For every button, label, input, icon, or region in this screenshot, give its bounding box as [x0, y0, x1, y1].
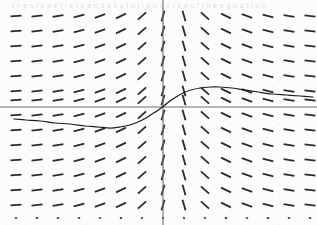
slope-segment: [263, 15, 274, 18]
slope-segment: [221, 128, 231, 133]
slope-segment: [32, 174, 43, 175]
slope-segment: [74, 129, 85, 132]
slope-segment: [32, 204, 43, 205]
slope-segment: [53, 204, 64, 206]
slope-segment: [78, 218, 80, 219]
slope-segment: [95, 188, 105, 192]
slope-segment: [32, 60, 43, 61]
slope-segment: [242, 44, 252, 48]
slope-segment: [242, 128, 252, 132]
slope-segment: [242, 59, 252, 63]
slope-segment: [201, 72, 209, 79]
slope-segment: [242, 158, 252, 162]
slope-segment: [284, 189, 295, 191]
slope-segment: [53, 189, 64, 191]
slope-segment: [53, 90, 64, 92]
slope-segment: [182, 11, 185, 22]
slope-segment: [305, 15, 316, 16]
slope-segment: [53, 174, 64, 176]
slope-segment: [305, 30, 316, 31]
slope-segment: [225, 217, 227, 218]
slope-segment: [95, 98, 105, 102]
slope-segment: [95, 29, 105, 33]
slope-segment: [221, 14, 231, 19]
slope-segment: [201, 111, 209, 118]
slope-segment: [116, 173, 126, 178]
slope-segment: [284, 204, 295, 206]
slope-segment: [242, 29, 252, 33]
slope-segment: [74, 159, 85, 162]
slope-segment: [95, 158, 105, 162]
slope-field-figure: t h e s l o p e f i e l d a n d a s o l …: [0, 0, 317, 225]
slope-segment: [95, 44, 105, 48]
slope-segment: [116, 128, 126, 133]
slope-segment: [242, 188, 252, 192]
slope-segment: [116, 44, 126, 49]
slope-segment: [11, 205, 22, 206]
slope-segment: [116, 98, 126, 103]
slope-segment: [221, 29, 231, 34]
slope-segment: [263, 189, 274, 192]
slope-field-canvas: [0, 0, 317, 225]
slope-segment: [141, 217, 143, 219]
slope-segment: [263, 30, 274, 33]
slope-segment: [138, 12, 146, 19]
slope-segment: [116, 59, 126, 64]
slope-segment: [201, 171, 209, 178]
slope-segment: [201, 42, 209, 49]
slope-segment: [201, 12, 209, 19]
slope-segment: [246, 218, 248, 219]
slope-segment: [263, 204, 274, 207]
slope-segment: [284, 144, 295, 146]
slope-segment: [74, 30, 85, 33]
slope-segment: [53, 159, 64, 161]
slope-segment: [305, 99, 316, 100]
slope-segment: [221, 44, 231, 49]
slope-segment: [182, 56, 185, 67]
slope-segment: [95, 59, 105, 63]
slope-segment: [11, 31, 22, 32]
slope-segment: [53, 45, 64, 47]
slope-segment: [116, 89, 126, 94]
slope-segment: [32, 159, 43, 160]
slope-segment: [242, 113, 252, 117]
slope-segment: [138, 72, 146, 79]
slope-segment: [263, 144, 274, 147]
slope-segment: [74, 189, 85, 192]
slope-segment: [242, 98, 252, 102]
slope-segment: [182, 170, 185, 181]
slope-segment: [263, 45, 274, 48]
slope-segment: [242, 173, 252, 177]
slope-segment: [263, 114, 274, 117]
slope-segment: [53, 129, 64, 131]
slope-segment: [32, 15, 43, 16]
slope-segment: [201, 156, 209, 163]
slope-segment: [263, 60, 274, 63]
slope-segment: [74, 15, 85, 18]
slope-segment: [182, 125, 185, 136]
slope-segment: [201, 186, 209, 193]
slope-segment: [284, 159, 295, 161]
slope-segment: [116, 113, 126, 118]
slope-segment: [138, 171, 146, 178]
slope-segment: [138, 27, 146, 34]
slope-segment: [53, 99, 64, 101]
slope-segment: [95, 143, 105, 147]
slope-segment: [263, 129, 274, 132]
slope-segment: [201, 126, 209, 133]
slope-segment: [284, 30, 295, 32]
slope-segment: [11, 46, 22, 47]
slope-segment: [201, 201, 209, 208]
slope-segment: [116, 143, 126, 148]
slope-segment: [305, 45, 316, 46]
slope-segment: [263, 75, 274, 78]
slope-segment: [116, 203, 126, 208]
slope-segment: [201, 96, 209, 103]
slope-segment: [263, 99, 274, 102]
slope-segment: [305, 159, 316, 160]
slope-segment: [242, 14, 252, 18]
slope-segment: [221, 89, 231, 94]
slope-segment: [74, 45, 85, 48]
slope-segment: [99, 218, 101, 219]
slope-segment: [53, 114, 64, 116]
